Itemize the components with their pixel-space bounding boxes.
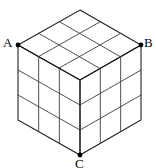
top-face-outline [18, 10, 141, 80]
vertex-label-a: A [3, 36, 12, 49]
cube-right-face [80, 45, 141, 155]
cube-top-face [18, 10, 141, 80]
vertex-label-b: B [144, 36, 153, 49]
cube-figure: A B C [0, 0, 156, 168]
vertex-dot-a [16, 43, 21, 48]
vertex-label-c: C [75, 157, 84, 168]
vertex-dot-b [139, 43, 144, 48]
isometric-cube-drawing [0, 0, 156, 168]
